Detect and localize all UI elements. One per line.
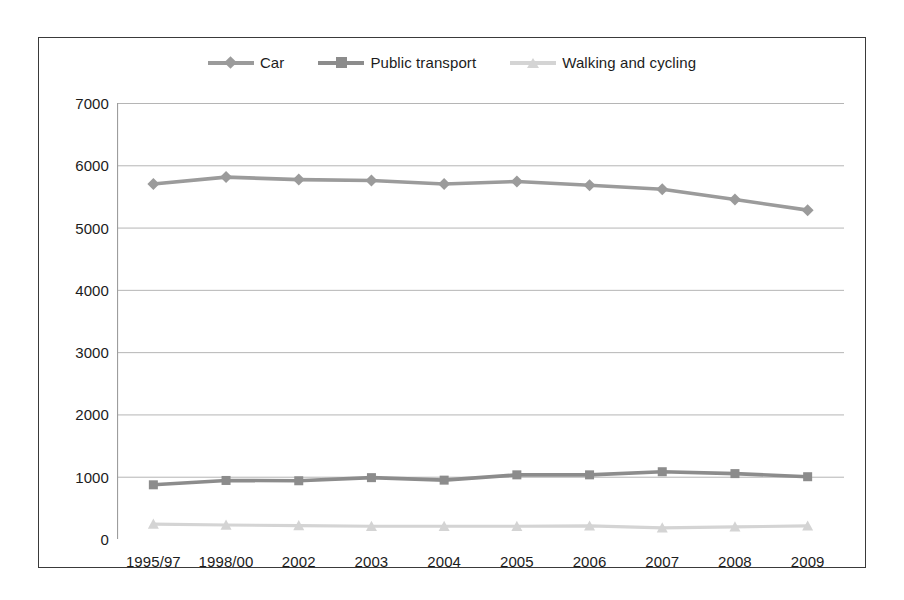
x-axis-tick-label: 2007 [645,553,679,570]
plot-svg [117,103,844,539]
y-axis-tick-label: 3000 [49,344,109,361]
legend-marker-triangle-icon [527,58,539,68]
legend-label: Walking and cycling [562,54,696,71]
data-point-marker [365,175,377,187]
y-axis-tick-label: 6000 [49,157,109,174]
data-point-marker [293,174,305,186]
data-point-marker [584,179,596,191]
legend-label: Car [260,54,284,71]
data-point-marker [440,476,449,485]
data-point-marker [656,183,668,195]
series-line [153,177,807,210]
data-point-marker [512,470,521,479]
legend-item-public-transport[interactable]: Public transport [318,54,476,71]
x-axis-tick-label: 2005 [500,553,534,570]
data-point-marker [149,480,158,489]
y-axis-labels: 01000200030004000500060007000 [39,103,109,539]
legend-marker-diamond-icon [224,56,237,69]
x-axis-tick-label: 1998/00 [199,553,254,570]
x-axis-tick-label: 2004 [427,553,461,570]
legend-key-icon [208,56,254,70]
y-axis-tick-label: 1000 [49,468,109,485]
x-axis-tick-label: 2008 [718,553,752,570]
x-axis-tick-label: 2006 [573,553,607,570]
y-axis-tick-label: 2000 [49,406,109,423]
data-point-marker [147,178,159,190]
x-axis-tick-label: 2009 [791,553,825,570]
x-axis-tick-label: 1995/97 [126,553,181,570]
data-point-marker [511,175,523,187]
x-axis-tick-label: 2003 [355,553,389,570]
data-point-marker [438,178,450,190]
legend-key-icon [318,56,364,70]
data-point-marker [803,472,812,481]
series-line [153,472,807,485]
data-point-marker [294,476,303,485]
y-axis-tick-label: 7000 [49,95,109,112]
x-axis-tick-label: 2002 [282,553,316,570]
data-point-marker [220,171,232,183]
chart-frame: CarPublic transportWalking and cycling 0… [38,37,866,568]
plot-area [117,103,844,539]
data-point-marker [729,194,741,206]
series-line [153,524,807,528]
legend-marker-square-icon [336,57,347,68]
legend-label: Public transport [370,54,476,71]
legend-key-icon [510,56,556,70]
y-axis-tick-label: 5000 [49,219,109,236]
series-car [147,171,813,216]
data-point-marker [585,470,594,479]
data-point-marker [367,473,376,482]
legend-item-car[interactable]: Car [208,54,284,71]
y-axis-tick-label: 0 [49,531,109,548]
legend-item-walking-and-cycling[interactable]: Walking and cycling [510,54,696,71]
chart-legend: CarPublic transportWalking and cycling [39,54,865,71]
series-public-transport [149,467,812,489]
x-axis-labels: 1995/971998/0020022003200420052006200720… [117,553,844,579]
data-point-marker [802,204,814,216]
series-walking-and-cycling [148,519,813,533]
data-point-marker [658,467,667,476]
data-point-marker [222,476,231,485]
data-point-marker [730,469,739,478]
y-axis-tick-label: 4000 [49,281,109,298]
